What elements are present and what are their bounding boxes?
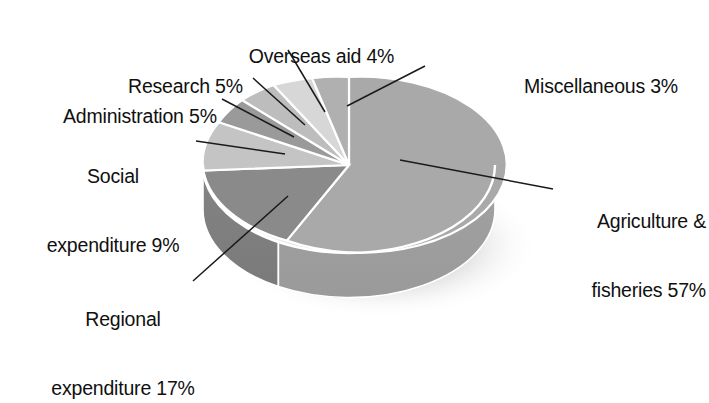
pie-label-social-expenditure-line1: Social — [8, 165, 218, 188]
pie-label-regional-expenditure: Regional expenditure 17% — [18, 262, 228, 403]
pie-label-agriculture-fisheries-line1: Agriculture & — [556, 210, 706, 233]
pie-label-miscellaneous: Miscellaneous 3% — [428, 52, 678, 121]
pie-label-social-expenditure-line2: expenditure 9% — [8, 234, 218, 257]
pie-label-regional-expenditure-line2: expenditure 17% — [18, 377, 228, 400]
pie-label-agriculture-fisheries: Agriculture & fisheries 57% — [556, 164, 706, 348]
pie-label-regional-expenditure-line1: Regional — [18, 308, 228, 331]
pie-label-miscellaneous-text: Miscellaneous 3% — [524, 75, 678, 97]
pie-label-agriculture-fisheries-line2: fisheries 57% — [556, 279, 706, 302]
